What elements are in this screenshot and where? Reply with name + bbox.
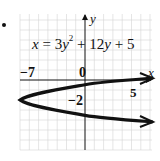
tick-label-y-neg2: −2 [68, 94, 83, 108]
equation-label: x = 3y2 + 12y + 5 [32, 36, 134, 52]
parabola-chart [0, 0, 160, 161]
y-axis-label: y [90, 12, 96, 25]
grid [20, 14, 152, 150]
x-axis-label: x [148, 66, 154, 79]
tick-label-origin: 0 [79, 66, 86, 80]
tick-label-x-5: 5 [130, 86, 137, 99]
tick-label-x-neg7: −7 [20, 66, 35, 80]
